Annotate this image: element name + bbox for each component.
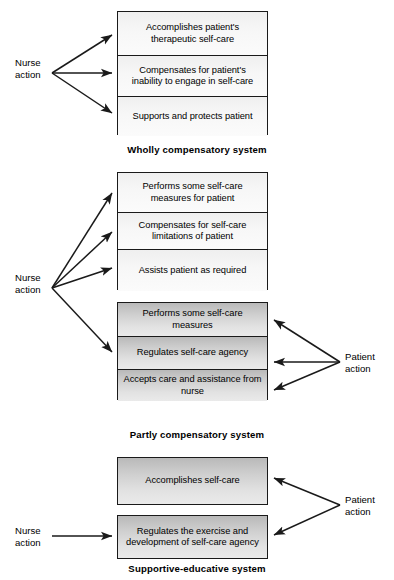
- actor-label-nurse-1-line1: Nurse: [15, 57, 41, 69]
- caption-wholly-compensatory: Wholly compensatory system: [0, 144, 394, 155]
- actor-label-patient-2-line1: Patient: [345, 494, 375, 506]
- cell-performs-some-self-care-measures: Performs some self-care measures: [118, 303, 267, 336]
- cell-regulates-exercise-development: Regulates the exercise and development o…: [118, 516, 267, 558]
- patient-arrows-group-4: [274, 478, 340, 535]
- actor-label-nurse-2-line2: action: [15, 284, 41, 296]
- patient-arrows-group-3: [274, 320, 340, 390]
- wholly-compensatory-nurse-block: Accomplishes patient's therapeutic self-…: [117, 11, 268, 135]
- cell-compensates-inability-engage: Compensates for patient's inability to e…: [118, 55, 267, 96]
- actor-label-patient-1-line2: action: [345, 363, 375, 375]
- actor-label-patient-1-line1: Patient: [345, 351, 375, 363]
- partly-compensatory-patient-block: Performs some self-care measures Regulat…: [117, 302, 268, 400]
- actor-label-patient-2: Patient action: [345, 494, 375, 517]
- supportive-educative-patient-block: Accomplishes self-care: [117, 457, 268, 505]
- nurse-arrows-group-2: [52, 193, 112, 352]
- actor-label-nurse-3-line2: action: [15, 537, 41, 549]
- cell-accomplishes-self-care: Accomplishes self-care: [118, 458, 267, 504]
- cell-performs-some-measures-for-patient: Performs some self-care measures for pat…: [118, 173, 267, 212]
- diagram-canvas: Accomplishes patient's therapeutic self-…: [0, 0, 394, 580]
- cell-regulates-self-care-agency: Regulates self-care agency: [118, 336, 267, 369]
- cell-accomplishes-therapeutic-self-care: Accomplishes patient's therapeutic self-…: [118, 12, 267, 55]
- caption-supportive-educative: Supportive-educative system: [0, 563, 394, 574]
- actor-label-patient-2-line2: action: [345, 506, 375, 518]
- actor-label-nurse-2-line1: Nurse: [15, 272, 41, 284]
- cell-supports-protects-patient: Supports and protects patient: [118, 96, 267, 136]
- cell-compensates-limitations-of-patient: Compensates for self-care limitations of…: [118, 212, 267, 249]
- actor-label-nurse-1-line2: action: [15, 69, 41, 81]
- nurse-arrows-group-1: [52, 35, 112, 113]
- supportive-educative-shared-block: Regulates the exercise and development o…: [117, 515, 268, 559]
- actor-label-nurse-3-line1: Nurse: [15, 525, 41, 537]
- actor-label-nurse-1: Nurse action: [15, 57, 41, 80]
- actor-label-nurse-2: Nurse action: [15, 272, 41, 295]
- partly-compensatory-nurse-block: Performs some self-care measures for pat…: [117, 172, 268, 290]
- cell-assists-patient-as-required: Assists patient as required: [118, 249, 267, 291]
- actor-label-patient-1: Patient action: [345, 351, 375, 374]
- actor-label-nurse-3: Nurse action: [15, 525, 41, 548]
- caption-partly-compensatory: Partly compensatory system: [0, 429, 394, 440]
- cell-accepts-care-from-nurse: Accepts care and assistance from nurse: [118, 369, 267, 401]
